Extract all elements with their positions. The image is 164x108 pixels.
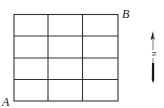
point-b-label: B [122, 7, 130, 21]
north-label: N [150, 51, 158, 56]
point-a-label: A [1, 95, 10, 108]
north-arrow-icon: N [150, 31, 158, 83]
street-grid [14, 15, 118, 102]
grid-diagram: A B N [0, 0, 164, 108]
